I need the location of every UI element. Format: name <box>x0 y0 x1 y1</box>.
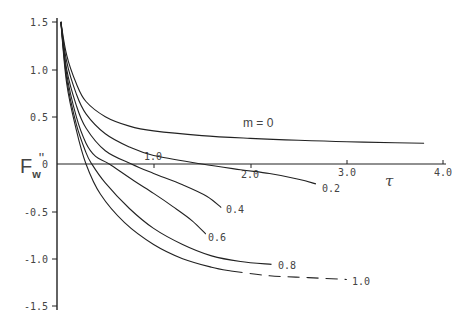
x-tick-labels: 1.0 2.0 3.0 4.0 <box>144 151 452 180</box>
curve-label-m0: m = 0 <box>243 116 274 130</box>
y-tick-label: -0.5 <box>24 207 48 218</box>
y-tick-label: -1.0 <box>24 254 48 265</box>
y-ticks <box>52 22 57 306</box>
chart-container: 1.5 1.0 0.5 0 -0.5 -1.0 -1.5 1.0 2.0 3.0… <box>0 0 464 327</box>
curve-label-0-4: 0.4 <box>226 204 244 215</box>
y-tick-label: -1.5 <box>24 301 48 312</box>
curve-label-1-0: 1.0 <box>352 276 370 287</box>
curve-line <box>61 22 206 234</box>
y-tick-label: 1.0 <box>30 65 48 76</box>
curve-line <box>61 22 272 265</box>
y-tick-label: 1.5 <box>30 17 48 28</box>
y-tick-label: 0.5 <box>30 112 48 123</box>
curve-line <box>61 22 221 208</box>
x-axis-title: τ <box>385 172 394 190</box>
y-axis-title: Fw'' <box>20 150 44 180</box>
curve-label-0-2: 0.2 <box>322 183 340 194</box>
chart-plot: 1.5 1.0 0.5 0 -0.5 -1.0 -1.5 1.0 2.0 3.0… <box>0 0 464 327</box>
curve-label-0-8: 0.8 <box>278 260 296 271</box>
curve-line-dashed <box>231 271 347 280</box>
x-tick-label: 3.0 <box>338 167 356 178</box>
curve-line <box>61 22 316 184</box>
curves-group <box>61 22 424 280</box>
curve-label-0-6: 0.6 <box>208 232 226 243</box>
x-tick-label: 4.0 <box>434 167 452 178</box>
